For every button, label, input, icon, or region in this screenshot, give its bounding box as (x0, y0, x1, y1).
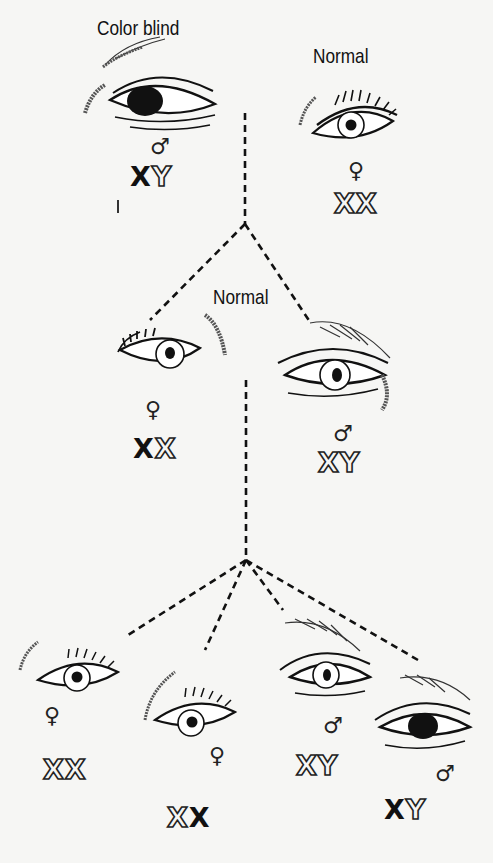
chromosome-x: X (65, 756, 87, 783)
chromosome-x: X (43, 756, 65, 783)
male-symbol-icon: ♂ (150, 136, 170, 158)
label-color-blind: Color blind (97, 16, 179, 40)
chromosome-x-affected: X (189, 804, 211, 831)
label-normal-mother: Normal (313, 44, 369, 68)
chromosomes-father: XY (130, 163, 172, 190)
chromosomes-child-1: XX (43, 756, 87, 783)
chromosome-y: Y (340, 449, 361, 476)
eye-child-1-icon (20, 642, 118, 691)
chromosomes-child-2: XX (167, 804, 211, 831)
male-symbol-icon: ♂ (333, 423, 353, 445)
chromosome-y: Y (152, 163, 173, 190)
eye-normal-mother-icon (300, 90, 397, 138)
chromosomes-mother: XX (334, 190, 378, 217)
chromosome-x-affected: X (133, 435, 155, 462)
male-symbol-icon: ♂ (323, 715, 343, 737)
eye-normal-husband-icon (278, 322, 390, 410)
eye-child-4-colorblind-icon (375, 675, 470, 748)
chromosome-x-affected: X (130, 163, 152, 190)
chromosome-y: Y (406, 796, 427, 823)
female-symbol-icon: ♀ (348, 160, 364, 182)
chromosomes-daughter: XX (133, 435, 177, 462)
chromosome-x: X (296, 752, 318, 779)
male-symbol-icon: ♂ (435, 763, 455, 785)
female-symbol-icon: ♀ (44, 705, 60, 727)
eye-child-3-icon (280, 619, 370, 696)
chromosome-x-affected: X (384, 796, 406, 823)
chromosomes-child-3: XY (296, 752, 338, 779)
chromosome-x: X (155, 435, 177, 462)
chromosomes-husband: XY (318, 449, 360, 476)
chromosomes-child-4: XY (384, 796, 426, 823)
female-symbol-icon: ♀ (145, 399, 161, 421)
chromosome-x: X (356, 190, 378, 217)
chromosome-x: X (318, 449, 340, 476)
eye-child-2-icon (145, 672, 235, 736)
label-normal-generation-2: Normal (213, 285, 269, 309)
chromosome-y: Y (318, 752, 339, 779)
chromosome-x: X (167, 804, 189, 831)
inheritance-diagram (0, 0, 493, 863)
branch-line-child-3 (246, 560, 283, 610)
female-symbol-icon: ♀ (209, 745, 225, 767)
eye-colorblind-father-icon (85, 37, 215, 130)
branch-line-child-4 (246, 560, 418, 660)
eye-carrier-daughter-icon (118, 315, 225, 368)
chromosome-x: X (334, 190, 356, 217)
